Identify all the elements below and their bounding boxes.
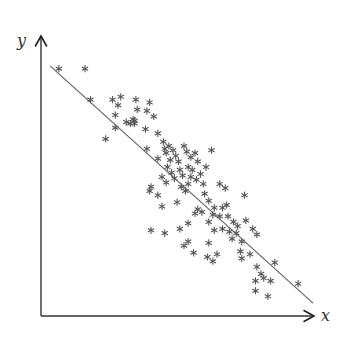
asterisk-marker — [109, 96, 115, 103]
asterisk-marker — [163, 149, 169, 156]
asterisk-marker — [112, 111, 118, 118]
asterisk-marker — [206, 197, 212, 204]
asterisk-marker — [148, 183, 154, 190]
asterisk-marker — [219, 225, 225, 232]
asterisk-marker — [211, 227, 217, 234]
asterisk-marker — [180, 172, 186, 179]
asterisk-marker — [134, 106, 140, 113]
scatter-plot: y x — [0, 0, 363, 339]
asterisk-marker — [177, 225, 183, 232]
asterisk-marker — [185, 180, 191, 187]
asterisk-marker — [155, 130, 161, 137]
asterisk-marker — [252, 287, 258, 294]
asterisk-marker — [82, 65, 88, 72]
asterisk-marker — [268, 277, 274, 284]
asterisk-marker — [217, 180, 223, 187]
asterisk-marker — [159, 173, 165, 180]
asterisk-marker — [208, 147, 214, 154]
asterisk-marker — [131, 120, 137, 127]
asterisk-marker — [188, 173, 194, 180]
asterisk-marker — [200, 180, 206, 187]
asterisk-marker — [202, 190, 208, 197]
asterisk-marker — [181, 142, 187, 149]
asterisk-marker — [184, 148, 190, 155]
asterisk-marker — [173, 152, 179, 159]
asterisk-marker — [197, 170, 203, 177]
asterisk-marker — [239, 255, 245, 262]
asterisk-marker — [254, 263, 260, 270]
asterisk-marker — [261, 274, 267, 281]
asterisk-marker — [130, 116, 136, 123]
asterisk-marker — [195, 206, 201, 213]
asterisk-marker — [160, 138, 166, 145]
asterisk-marker — [147, 187, 153, 194]
asterisk-marker — [210, 258, 216, 265]
asterisk-marker — [185, 220, 191, 227]
asterisk-marker — [195, 158, 201, 165]
asterisk-marker — [203, 163, 209, 170]
asterisk-marker — [295, 280, 301, 287]
asterisk-marker — [163, 179, 169, 186]
asterisk-marker — [241, 192, 247, 199]
asterisk-marker — [103, 135, 109, 142]
asterisk-marker — [175, 158, 181, 165]
asterisk-marker — [169, 169, 175, 176]
asterisk-marker — [118, 93, 124, 100]
asterisk-marker — [224, 201, 230, 208]
asterisk-marker — [247, 251, 253, 258]
asterisk-marker — [115, 102, 121, 109]
asterisk-marker — [112, 124, 118, 131]
asterisk-marker — [191, 249, 197, 256]
asterisk-marker — [147, 99, 153, 106]
asterisk-marker — [193, 176, 199, 183]
asterisk-marker — [142, 126, 148, 133]
asterisk-marker — [155, 192, 161, 199]
asterisk-marker — [159, 203, 165, 210]
asterisk-marker — [219, 204, 225, 211]
asterisk-marker — [211, 204, 217, 211]
asterisk-marker — [265, 293, 271, 300]
asterisk-marker — [225, 213, 231, 220]
asterisk-marker — [254, 231, 260, 238]
asterisk-marker — [252, 277, 258, 284]
asterisk-marker — [185, 163, 191, 170]
asterisk-marker — [174, 199, 180, 206]
asterisk-marker — [162, 230, 168, 237]
asterisk-marker — [189, 166, 195, 173]
asterisk-marker — [229, 235, 235, 242]
asterisk-marker — [167, 156, 173, 163]
asterisk-marker — [243, 217, 249, 224]
asterisk-marker — [144, 107, 150, 114]
asterisk-marker — [237, 248, 243, 255]
asterisk-marker — [151, 113, 157, 120]
asterisk-marker — [222, 185, 228, 192]
asterisk-marker — [133, 96, 139, 103]
x-axis-label: x — [321, 306, 330, 325]
asterisk-marker — [206, 218, 212, 225]
y-axis-label: y — [16, 31, 27, 50]
asterisk-marker — [272, 259, 278, 266]
asterisk-marker — [177, 166, 183, 173]
asterisk-marker — [199, 208, 205, 215]
asterisk-marker — [204, 253, 210, 260]
asterisk-marker — [162, 145, 168, 152]
asterisk-marker — [250, 225, 256, 232]
asterisk-marker — [148, 227, 154, 234]
asterisk-marker — [206, 239, 212, 246]
asterisk-marker — [214, 251, 220, 258]
